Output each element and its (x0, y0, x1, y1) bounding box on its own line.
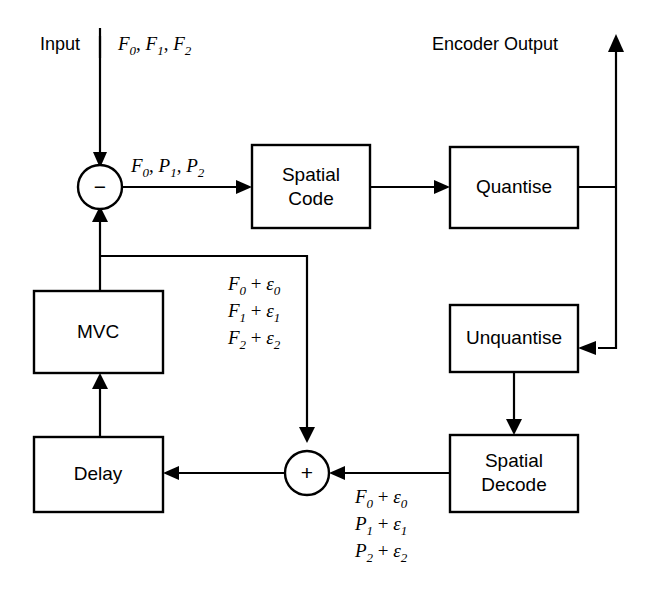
svg-text:F0, P1, P2: F0, P1, P2 (130, 155, 205, 180)
fb-up-2-op: + (251, 327, 262, 348)
residual-signal-label: F0, P1, P2 (130, 155, 205, 180)
block-spatial-decode-label-line2: Decode (481, 474, 547, 495)
svg-text:P1 + ε1: P1 + ε1 (354, 513, 407, 538)
block-spatial-decode[interactable]: Spatial Decode (450, 435, 578, 512)
fb-lo-1-greek-sub: 1 (401, 523, 408, 538)
fb-up-0-greek-sub: 0 (274, 283, 281, 298)
fb-up-0-op: + (251, 273, 262, 294)
input-term-1-base: F (145, 33, 158, 54)
input-term-0-base: F (117, 33, 130, 54)
adder-sign: + (301, 461, 313, 484)
block-unquantise[interactable]: Unquantise (450, 305, 578, 372)
input-label: Input (40, 34, 80, 54)
block-spatial-code-label-line2: Code (288, 188, 333, 209)
feedback-upper-label: F0 + ε0 F1 + ε1 F2 + ε2 (227, 273, 281, 352)
svg-text:F0 + ε0: F0 + ε0 (227, 273, 281, 298)
arrowhead-adder-right-in (329, 466, 345, 480)
fb-lo-0-base: F (354, 486, 367, 507)
residual-term-1-base: P (158, 155, 171, 176)
fb-up-1-greek-sub: 1 (274, 310, 281, 325)
wire-mvc-to-subtractor (92, 206, 108, 291)
arrowhead-spatial-decode-in (506, 419, 522, 435)
wire-spatial-decode-to-adder (329, 466, 450, 480)
fb-lo-2-op: + (378, 540, 389, 561)
fb-up-2-greek-sub: 2 (274, 337, 281, 352)
block-delay-label: Delay (74, 463, 123, 484)
block-mvc-label: MVC (77, 321, 119, 342)
svg-text:F1 + ε1: F1 + ε1 (227, 300, 280, 325)
wire-unquantise-to-spatial-decode (506, 372, 522, 435)
wire-output-bus-to-unquantise (578, 187, 616, 355)
wire-spatial-code-to-quantise (370, 180, 450, 194)
block-quantise[interactable]: Quantise (450, 147, 578, 228)
subtractor-sign: − (94, 175, 106, 198)
arrowhead-encoder-output (608, 34, 624, 52)
residual-term-2-base: P (185, 155, 198, 176)
block-quantise-label: Quantise (476, 176, 552, 197)
fb-up-0-base: F (227, 273, 240, 294)
fb-lo-1-base: P (354, 513, 367, 534)
node-subtractor[interactable]: − (78, 165, 122, 209)
fb-lo-0-op: + (378, 486, 389, 507)
arrowhead-mvc-in (92, 373, 108, 389)
arrowhead-spatial-code-in (236, 180, 252, 194)
input-term-2-base: F (172, 33, 185, 54)
block-spatial-code[interactable]: Spatial Code (252, 145, 370, 228)
block-spatial-decode-label-line1: Spatial (485, 450, 543, 471)
wire-adder-to-delay (163, 466, 285, 480)
block-mvc[interactable]: MVC (34, 291, 163, 373)
node-adder[interactable]: + (285, 451, 329, 495)
fb-up-1-op: + (251, 300, 262, 321)
wire-delay-to-mvc (92, 373, 108, 437)
wire-encoder-output (608, 34, 624, 187)
fb-up-2-base: F (227, 327, 240, 348)
arrowhead-adder-top-in (299, 427, 315, 443)
residual-term-0-base: F (130, 155, 143, 176)
fb-lo-0-greek-sub: 0 (401, 496, 408, 511)
arrowhead-delay-in (163, 466, 179, 480)
svg-text:P2 + ε2: P2 + ε2 (354, 540, 408, 565)
svg-text:F0 + ε0: F0 + ε0 (354, 486, 408, 511)
fb-up-1-base: F (227, 300, 240, 321)
residual-term-2-sub: 2 (198, 165, 205, 180)
arrowhead-unquantise-in (578, 341, 596, 355)
encoder-output-label: Encoder Output (432, 34, 558, 54)
fb-lo-2-base: P (354, 540, 367, 561)
block-delay[interactable]: Delay (34, 437, 163, 512)
block-spatial-code-label-line1: Spatial (282, 164, 340, 185)
encoder-block-diagram: Spatial Code Quantise Unquantise Spatial… (0, 0, 645, 598)
feedback-lower-label: F0 + ε0 P1 + ε1 P2 + ε2 (354, 486, 408, 565)
block-unquantise-label: Unquantise (466, 327, 562, 348)
wire-subtractor-to-spatial-code (122, 180, 252, 194)
arrowhead-quantise-in (434, 180, 450, 194)
input-signal-label: F0, F1, F2 (117, 33, 192, 58)
svg-text:F0, F1, F2: F0, F1, F2 (117, 33, 192, 58)
fb-lo-2-greek-sub: 2 (401, 550, 408, 565)
fb-lo-1-op: + (378, 513, 389, 534)
input-term-2-sub: 2 (185, 43, 192, 58)
diagram-canvas: Spatial Code Quantise Unquantise Spatial… (0, 0, 645, 598)
svg-text:F2 + ε2: F2 + ε2 (227, 327, 281, 352)
